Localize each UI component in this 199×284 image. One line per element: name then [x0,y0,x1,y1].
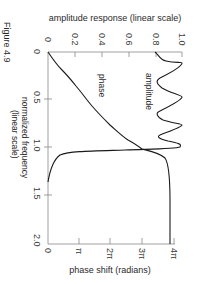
amplitude-axis-title: amplitude response (linear scale) [49,13,182,23]
plot-frame [48,52,182,244]
phase-tick-2: 2π [105,248,115,259]
amp-tick-3: 0.6 [124,33,134,46]
phase-tick-3: 3π [137,248,147,259]
chart: Figure 4.9 amplitude response (linear sc… [0,0,199,284]
amplitude-tick-labels: 0 0.2 0.4 0.6 0.8 1.0 [43,33,187,46]
phase-tick-0: 0 [43,248,53,253]
amp-tick-4: 0.8 [151,33,161,46]
frequency-axis-title-line1: normalized frequency [20,97,30,179]
phase-curve-label: phase [97,74,107,97]
amp-tick-5: 1.0 [177,33,187,46]
phase-tick-4: 4π [169,248,179,259]
freq-tick-3: 1.5 [32,187,42,200]
amplitude-curve-label: amplitude [144,73,154,110]
phase-tick-labels: 0 π 2π 3π 4π [43,248,179,259]
amp-tick-0: 0 [43,37,53,42]
figure-caption: Figure 4.9 [2,22,12,63]
phase-tick-1: π [74,248,84,254]
freq-tick-1: 0.5 [32,91,42,104]
phase-ticks [79,238,174,244]
freq-tick-0: 0 [32,49,42,54]
frequency-axis-title-line2: (linear scale) [10,110,20,159]
amp-tick-2: 0.4 [97,33,107,46]
amplitude-ticks [75,52,182,57]
frequency-tick-labels: 0 0.5 1.0 1.5 2.0 [32,49,42,247]
amp-tick-1: 0.2 [70,33,80,46]
phase-axis-title: phase shift (radians) [69,265,151,275]
freq-tick-4: 2.0 [32,234,42,247]
freq-tick-2: 1.0 [32,139,42,152]
amplitude-curve [48,52,182,182]
